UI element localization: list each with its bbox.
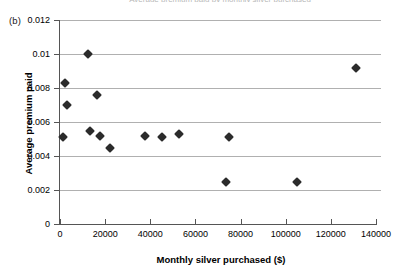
x-axis-line — [60, 224, 377, 225]
data-point — [92, 90, 102, 100]
data-point — [95, 131, 105, 141]
scatter-chart-figure: Average premium paid by monthly silver p… — [0, 0, 408, 277]
data-point — [58, 132, 68, 142]
data-point — [140, 131, 150, 141]
y-tick-label: 0.012 — [8, 16, 50, 25]
data-point — [174, 129, 184, 139]
data-point — [86, 126, 96, 136]
figure-title: Average premium paid by monthly silver p… — [60, 0, 380, 2]
data-point — [221, 177, 231, 187]
data-point — [62, 100, 72, 110]
data-point — [292, 177, 302, 187]
x-tick-label: 140000 — [346, 229, 406, 239]
data-point — [224, 132, 234, 142]
data-point — [83, 49, 93, 59]
x-axis-title: Monthly silver purchased ($) — [60, 254, 382, 265]
y-tick-label: 0.002 — [8, 186, 50, 195]
y-tick-label: 0.01 — [8, 50, 50, 59]
data-point — [157, 132, 167, 142]
plot-area — [60, 20, 381, 224]
data-point — [105, 143, 115, 153]
y-tick-label: 0.008 — [8, 84, 50, 93]
y-tick-label: 0.004 — [8, 152, 50, 161]
data-point — [60, 78, 70, 88]
y-tick-label: 0.006 — [8, 118, 50, 127]
y-tick-label: 0 — [8, 220, 50, 229]
data-point — [351, 63, 361, 73]
